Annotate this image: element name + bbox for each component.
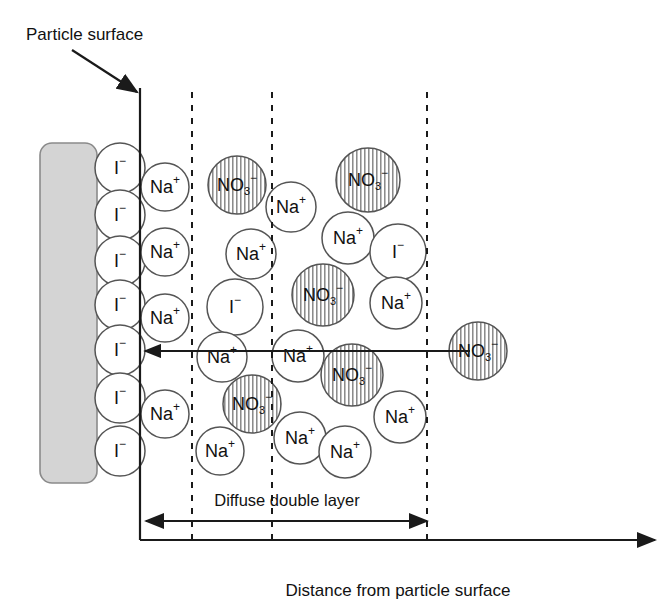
ion-nitrate: NO3− (208, 156, 266, 214)
particle-block (40, 143, 97, 483)
ion-iodide: I− (95, 190, 145, 240)
ion-iodide: I− (370, 224, 426, 280)
ion-sodium: Na+ (141, 390, 189, 438)
ion-sodium: Na+ (196, 427, 244, 475)
ion-sodium: Na+ (226, 229, 276, 279)
ion-sodium: Na+ (266, 182, 316, 232)
ion-iodide: I− (207, 279, 263, 335)
ion-iodide: I− (95, 280, 145, 330)
ion-sodium: Na+ (141, 228, 189, 276)
ion-nitrate: NO3− (292, 264, 354, 326)
ion-iodide: I− (95, 236, 145, 286)
ion-sodium: Na+ (274, 412, 326, 464)
ion-sodium: Na+ (374, 391, 426, 443)
ion-sodium: Na+ (319, 426, 371, 478)
double-layer-diagram: I−I−I−I−I−I−I−Na+Na+Na+Na+NO3−Na+I−Na+NO… (0, 0, 672, 615)
ion-layer: I−I−I−I−I−I−I−Na+Na+Na+Na+NO3−Na+I−Na+NO… (95, 143, 507, 478)
particle-surface-pointer (72, 50, 137, 92)
particle-surface-label: Particle surface (26, 25, 143, 44)
ion-sodium: Na+ (141, 163, 189, 211)
ion-sodium: Na+ (322, 212, 374, 264)
ion-sodium: Na+ (370, 277, 422, 329)
diagram-canvas: I−I−I−I−I−I−I−Na+Na+Na+Na+NO3−Na+I−Na+NO… (0, 0, 672, 615)
ion-nitrate: NO3− (336, 148, 400, 212)
ion-iodide: I− (95, 373, 145, 423)
ion-iodide: I− (95, 325, 145, 375)
diffuse-double-layer-label: Diffuse double layer (214, 491, 360, 509)
ion-sodium: Na+ (197, 332, 247, 382)
ion-iodide: I− (95, 426, 145, 476)
ion-iodide: I− (95, 143, 145, 193)
ion-nitrate: NO3− (321, 344, 383, 406)
pointer-arrow-group (72, 50, 137, 92)
distance-axis-label: Distance from particle surface (286, 581, 511, 600)
particle-body (40, 143, 97, 483)
ion-sodium: Na+ (141, 294, 189, 342)
ion-sodium: Na+ (272, 330, 324, 382)
